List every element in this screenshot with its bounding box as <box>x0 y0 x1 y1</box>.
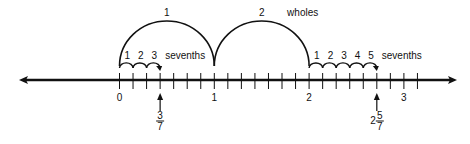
hop-unit-label: sevenths <box>165 50 205 61</box>
whole-arc <box>214 21 309 66</box>
hop-label: 2 <box>138 50 144 61</box>
hop-label: 1 <box>124 50 130 61</box>
seventh-hops: 123sevenths12345sevenths <box>120 50 422 71</box>
hop-label: 3 <box>152 50 158 61</box>
hop-label: 3 <box>341 50 347 61</box>
up-arrow-icon <box>157 93 163 100</box>
number-line-diagram: 12wholes 123sevenths12345sevenths 0123 3… <box>0 0 470 144</box>
hop-label: 4 <box>355 50 361 61</box>
hop-arrow-icon <box>156 66 162 71</box>
hop-arc <box>133 63 147 68</box>
hop-label: 1 <box>314 50 320 61</box>
hop-unit-label: sevenths <box>382 50 422 61</box>
fraction-markers: 37257 <box>156 93 384 132</box>
hop-arc <box>309 63 323 68</box>
fraction-numerator: 3 <box>157 110 163 121</box>
fraction-denominator: 7 <box>157 121 163 132</box>
tick-label-2: 2 <box>306 92 312 103</box>
whole-arc-label: 1 <box>164 7 170 18</box>
hop-arrow-icon <box>373 66 379 71</box>
hop-label: 2 <box>328 50 334 61</box>
tick-label-3: 3 <box>401 92 407 103</box>
whole-arc-label: 2 <box>259 7 265 18</box>
hop-arc <box>120 63 134 68</box>
tick-label-0: 0 <box>117 92 123 103</box>
whole-arcs: 12wholes <box>120 7 319 66</box>
up-arrow-icon <box>374 93 380 100</box>
hop-arc <box>350 63 364 68</box>
mixed-number-whole: 2 <box>370 115 376 126</box>
fraction-denominator: 7 <box>377 121 383 132</box>
hop-arc <box>323 63 337 68</box>
tick-label-1: 1 <box>212 92 218 103</box>
wholes-label: wholes <box>286 7 318 18</box>
hop-arc <box>336 63 350 68</box>
number-line: 0123 <box>19 73 457 103</box>
fraction-numerator: 5 <box>377 110 383 121</box>
hop-label: 5 <box>368 50 374 61</box>
